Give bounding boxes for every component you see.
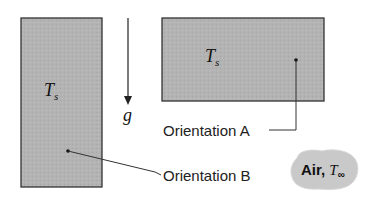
ambient-air-label: Air, T∞ — [301, 162, 345, 180]
gravity-label: g — [123, 106, 132, 124]
orientation-a-label: Orientation A — [163, 123, 250, 138]
gravity-arrow-icon — [124, 18, 132, 105]
orientation-b-label: Orientation B — [163, 168, 251, 183]
temperature-label-a: Ts — [205, 47, 219, 68]
temperature-label-b: Ts — [44, 81, 58, 102]
plate-orientation-b — [21, 18, 102, 187]
plate-orientation-a — [162, 18, 324, 101]
